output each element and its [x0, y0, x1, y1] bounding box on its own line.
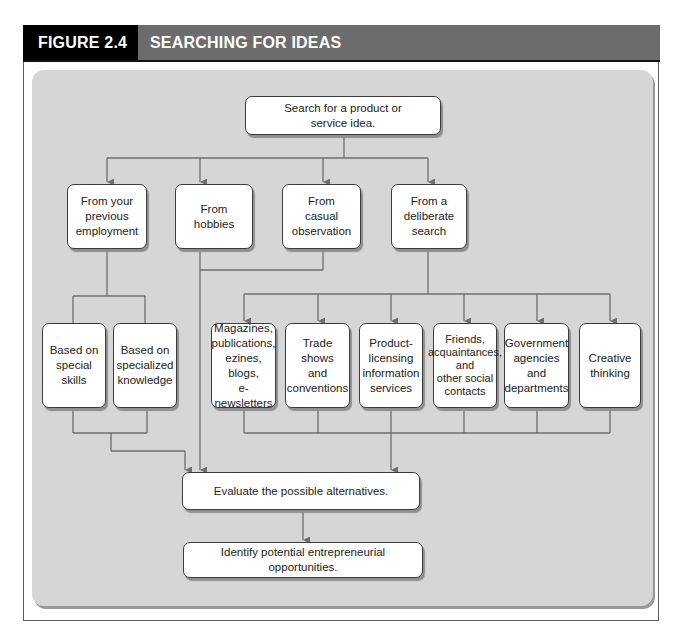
node-government-agencies: Government agencies and departments — [504, 323, 569, 408]
figure-header: FIGURE 2.4 SEARCHING FOR IDEAS — [23, 25, 660, 62]
node-casual-observation: From casual observation — [282, 184, 361, 249]
figure-title: SEARCHING FOR IDEAS — [150, 25, 341, 60]
node-creative-thinking: Creative thinking — [579, 323, 641, 408]
node-search-idea: Search for a product or service idea. — [245, 96, 441, 135]
node-product-licensing: Product- licensing information services — [359, 323, 423, 408]
node-magazines: Magazines, publications, ezines, blogs, … — [211, 323, 276, 408]
node-identify-opportunities: Identify potential entrepreneurial oppor… — [183, 542, 423, 578]
node-special-skills: Based on special skills — [42, 323, 106, 408]
node-deliberate-search: From a deliberate search — [391, 184, 467, 249]
node-hobbies: From hobbies — [175, 184, 253, 249]
node-friends-contacts: Friends, acquaintances, and other social… — [433, 323, 497, 408]
node-specialized-knowledge: Based on specialized knowledge — [113, 323, 177, 408]
node-trade-shows: Trade shows and conventions — [285, 323, 350, 408]
node-previous-employment: From your previous employment — [67, 184, 147, 249]
node-evaluate-alternatives: Evaluate the possible alternatives. — [182, 472, 420, 510]
figure-label: FIGURE 2.4 — [23, 25, 138, 60]
